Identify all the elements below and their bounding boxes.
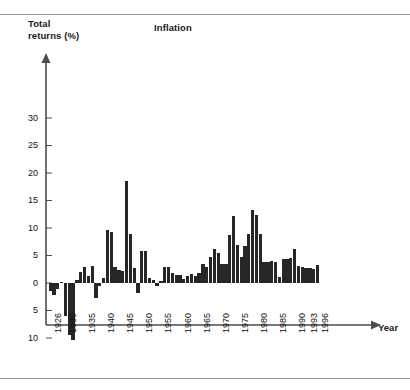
- bar: [217, 253, 220, 283]
- x-tick-label: 1975: [241, 313, 250, 333]
- bar: [155, 283, 158, 286]
- bar: [125, 181, 128, 283]
- bar: [163, 267, 166, 283]
- bar: [121, 271, 124, 283]
- x-tick-label: 1950: [145, 313, 154, 333]
- bar: [102, 278, 105, 284]
- bar: [255, 215, 258, 283]
- y-tick-label: 5: [12, 306, 38, 315]
- bar: [110, 232, 113, 283]
- bar: [49, 283, 52, 291]
- bar: [113, 267, 116, 284]
- bar: [56, 283, 59, 289]
- bar: [240, 257, 243, 283]
- bar: [262, 262, 265, 283]
- bar: [308, 268, 311, 283]
- bar: [236, 245, 239, 284]
- x-tick-label: 1945: [126, 313, 135, 333]
- bar: [91, 266, 94, 283]
- bar: [94, 283, 97, 298]
- bar: [205, 267, 208, 284]
- bar: [171, 273, 174, 283]
- y-tick-label: 0: [12, 279, 38, 288]
- bar: [83, 267, 86, 284]
- bar: [190, 274, 193, 283]
- y-tick-label: 30: [12, 114, 38, 123]
- bar: [285, 259, 288, 283]
- x-tick-label: 1985: [279, 313, 288, 333]
- bar: [282, 259, 285, 283]
- x-tick-label: 1970: [222, 313, 231, 333]
- x-tick-label: 1935: [88, 313, 97, 333]
- x-axis-arrow: [371, 321, 381, 330]
- bar: [148, 278, 151, 283]
- bar: [186, 276, 189, 283]
- bar: [64, 283, 67, 316]
- bar: [152, 280, 155, 283]
- x-tick-label: 1930: [69, 313, 78, 333]
- bar: [167, 267, 170, 284]
- x-tick-label: 1955: [164, 313, 173, 333]
- inflation-bar-chart: 302520151050510 192619301935194019451950…: [0, 0, 410, 390]
- bar: [136, 283, 139, 293]
- bar: [213, 249, 216, 283]
- bar: [251, 210, 254, 283]
- bar: [209, 257, 212, 283]
- bar: [297, 266, 300, 283]
- bar: [301, 267, 304, 283]
- bar: [224, 264, 227, 283]
- x-tick-label: 1926: [54, 313, 63, 333]
- bar: [316, 265, 319, 283]
- bar: [220, 264, 223, 283]
- bar: [232, 216, 235, 283]
- bar: [247, 234, 250, 284]
- bar: [79, 272, 82, 283]
- bar: [87, 276, 90, 283]
- bar: [140, 251, 143, 283]
- x-tick-label: 1965: [203, 313, 212, 333]
- bar: [117, 270, 120, 283]
- bar: [60, 282, 63, 283]
- y-axis-arrow: [42, 53, 51, 63]
- bar: [106, 230, 109, 283]
- bar: [144, 251, 147, 283]
- bar: [289, 258, 292, 283]
- bar: [129, 234, 132, 284]
- bar: [159, 281, 162, 283]
- y-tick-label: 15: [12, 196, 38, 205]
- bar: [243, 246, 246, 283]
- x-tick-label: 1960: [184, 313, 193, 333]
- bar: [52, 283, 55, 295]
- bar: [270, 261, 273, 283]
- bar: [266, 262, 269, 283]
- bar: [133, 268, 136, 283]
- bar: [312, 269, 315, 283]
- bar: [228, 235, 231, 283]
- y-tick-label: 25: [12, 141, 38, 150]
- y-tick-label: 20: [12, 169, 38, 178]
- bar: [175, 275, 178, 283]
- x-tick-label: 1993: [310, 313, 319, 333]
- y-tick-label: 5: [12, 251, 38, 260]
- x-tick-label: 1980: [260, 313, 269, 333]
- bar: [194, 276, 197, 283]
- bar: [178, 275, 181, 283]
- bar: [75, 280, 78, 283]
- bar: [182, 279, 185, 283]
- bar: [304, 268, 307, 283]
- y-tick-label: 10: [12, 224, 38, 233]
- x-tick-label: 1990: [298, 313, 307, 333]
- bar: [274, 262, 277, 283]
- bar: [201, 264, 204, 283]
- x-tick-label: 1940: [107, 313, 116, 333]
- x-tick-label: 1996: [321, 313, 330, 333]
- y-tick-label: 10: [12, 334, 38, 343]
- bar: [259, 234, 262, 283]
- bar: [197, 273, 200, 283]
- bar: [293, 249, 296, 283]
- bar: [98, 283, 101, 286]
- bar: [278, 277, 281, 283]
